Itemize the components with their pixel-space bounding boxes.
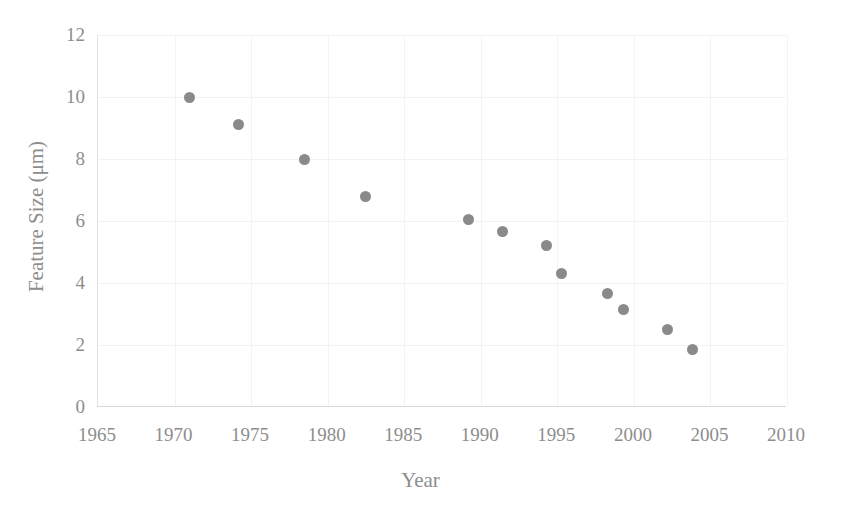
gridline-horizontal	[98, 35, 786, 36]
gridline-vertical	[787, 35, 788, 406]
data-point	[602, 288, 613, 299]
data-point	[299, 154, 310, 165]
data-point	[233, 119, 244, 130]
plot-area	[97, 35, 786, 407]
x-axis-tick-label: 2000	[593, 425, 673, 444]
data-point	[618, 304, 629, 315]
gridline-horizontal	[98, 221, 786, 222]
x-axis-tick-label: 1980	[287, 425, 367, 444]
data-point	[687, 344, 698, 355]
x-axis-tick-label: 1965	[57, 425, 137, 444]
gridline-vertical	[251, 35, 252, 406]
x-axis-tick-label: 1990	[440, 425, 520, 444]
y-axis-title-holder: Feature Size (μm)	[0, 0, 60, 440]
data-point	[463, 214, 474, 225]
data-point	[497, 226, 508, 237]
gridline-vertical	[557, 35, 558, 406]
gridline-horizontal	[98, 159, 786, 160]
data-point	[662, 324, 673, 335]
gridline-horizontal	[98, 97, 786, 98]
x-axis-tick-label: 1970	[134, 425, 214, 444]
x-axis-title: Year	[0, 468, 841, 493]
gridline-vertical	[634, 35, 635, 406]
gridline-vertical	[175, 35, 176, 406]
x-axis-tick-label: 1995	[516, 425, 596, 444]
x-axis-tick-label: 1975	[210, 425, 290, 444]
data-point	[360, 191, 371, 202]
gridline-vertical	[481, 35, 482, 406]
x-axis-tick-label: 1985	[363, 425, 443, 444]
data-point	[541, 240, 552, 251]
scatter-chart-figure: 024681012 196519701975198019851990199520…	[0, 0, 841, 520]
x-axis-tick-label: 2005	[669, 425, 749, 444]
data-point	[556, 268, 567, 279]
gridline-vertical	[404, 35, 405, 406]
gridline-vertical	[328, 35, 329, 406]
gridline-horizontal	[98, 283, 786, 284]
x-axis-tick-label: 2010	[746, 425, 826, 444]
gridline-horizontal	[98, 345, 786, 346]
y-axis-title: Feature Size (μm)	[24, 77, 49, 357]
data-point	[184, 92, 195, 103]
gridline-vertical	[710, 35, 711, 406]
